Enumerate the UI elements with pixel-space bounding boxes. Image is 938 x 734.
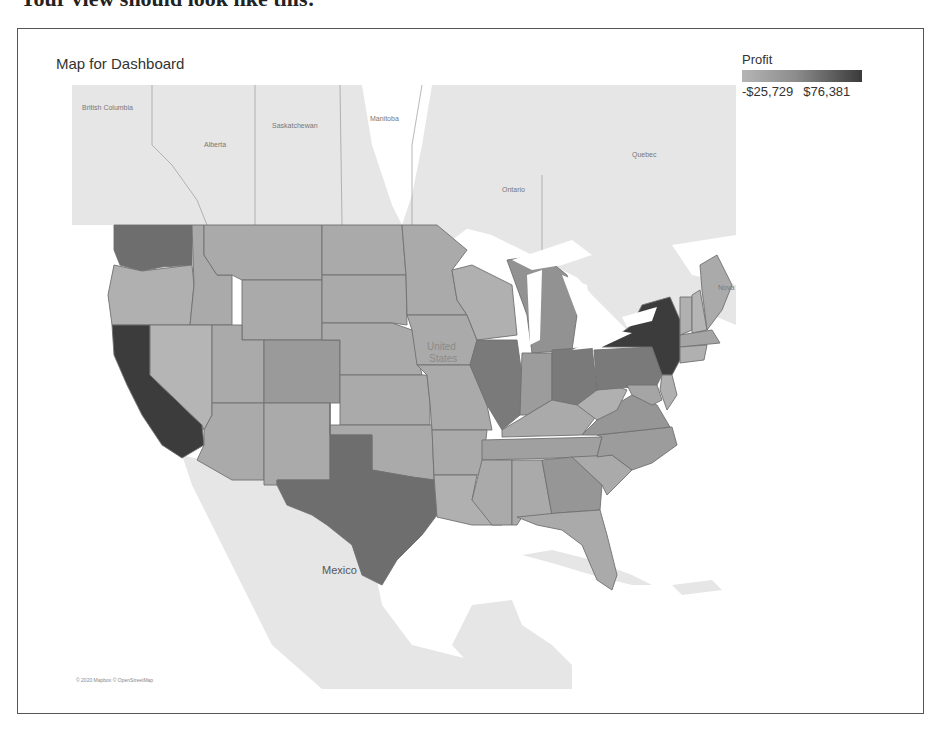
label-british-columbia: British Columbia bbox=[82, 104, 133, 111]
state-north-dakota[interactable] bbox=[322, 225, 406, 275]
state-arkansas[interactable] bbox=[432, 430, 487, 475]
state-oregon[interactable] bbox=[108, 265, 194, 325]
page-caption: Your view should look like this: bbox=[20, 0, 315, 12]
state-washington[interactable] bbox=[114, 225, 192, 271]
state-kansas[interactable] bbox=[340, 375, 430, 425]
label-united: United bbox=[427, 341, 456, 352]
profit-map[interactable]: British Columbia Alberta Saskatchewan Ma… bbox=[72, 85, 736, 689]
legend-min-label: -$25,729 bbox=[742, 84, 793, 99]
profit-legend: Profit -$25,729 $76,381 bbox=[742, 52, 872, 99]
label-nova-scotia: Nova bbox=[718, 284, 734, 291]
state-montana[interactable] bbox=[204, 225, 322, 280]
state-connecticut[interactable] bbox=[680, 345, 707, 363]
state-south-dakota[interactable] bbox=[322, 275, 407, 325]
state-vermont[interactable] bbox=[680, 297, 692, 335]
map-attribution[interactable]: © 2020 Mapbox © OpenStreetMap bbox=[76, 677, 153, 683]
legend-max-label: $76,381 bbox=[803, 84, 850, 99]
state-new-mexico[interactable] bbox=[264, 403, 330, 485]
label-states: States bbox=[429, 353, 457, 364]
state-pennsylvania[interactable] bbox=[594, 347, 662, 390]
state-colorado[interactable] bbox=[264, 340, 340, 403]
legend-title: Profit bbox=[742, 52, 872, 67]
label-mexico: Mexico bbox=[322, 564, 357, 576]
label-quebec: Quebec bbox=[632, 151, 657, 159]
label-manitoba: Manitoba bbox=[370, 115, 399, 122]
dashboard-title: Map for Dashboard bbox=[56, 55, 184, 72]
label-ontario: Ontario bbox=[502, 186, 525, 193]
label-saskatchewan: Saskatchewan bbox=[272, 122, 318, 129]
label-alberta: Alberta bbox=[204, 141, 226, 148]
legend-color-ramp bbox=[742, 70, 862, 82]
state-wyoming[interactable] bbox=[242, 280, 322, 340]
